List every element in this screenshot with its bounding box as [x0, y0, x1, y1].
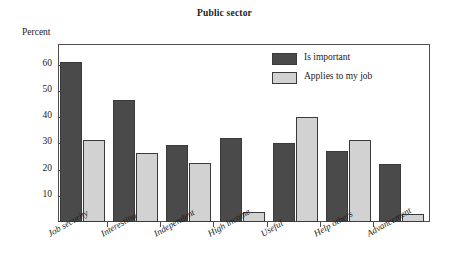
y-tick-label-20: 20 — [26, 163, 52, 173]
y-tick-label-40: 40 — [26, 110, 52, 120]
y-tick-label-30: 30 — [26, 136, 52, 146]
y-tick-label-60: 60 — [26, 58, 52, 68]
bar — [296, 117, 318, 222]
bar — [220, 138, 242, 222]
bar — [136, 153, 158, 222]
bar — [60, 62, 82, 222]
bar — [113, 100, 135, 222]
legend-label-applies-to-my-job: Applies to my job — [304, 71, 372, 81]
chart-title: Public sector — [0, 8, 449, 18]
bar — [349, 140, 371, 222]
legend-swatch-applies-to-my-job — [272, 72, 297, 84]
legend-swatch-is-important — [272, 53, 297, 65]
y-axis-caption: Percent — [22, 27, 51, 37]
y-tick-label-50: 50 — [26, 84, 52, 94]
legend-label-is-important: Is important — [304, 52, 350, 62]
public-sector-bar-chart: Public sector Percent 102030405060 Job s… — [0, 0, 449, 280]
y-tick-label-10: 10 — [26, 189, 52, 199]
bar — [273, 143, 295, 222]
